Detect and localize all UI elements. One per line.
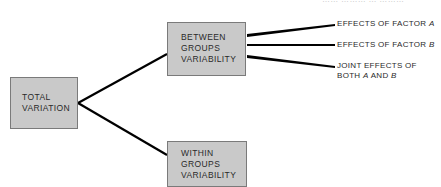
factor-b-symbol: B — [429, 40, 435, 49]
total-variation-box: TOTAL VARIATION — [10, 77, 78, 129]
between-groups-line-2: GROUPS — [181, 43, 236, 54]
connector-between-joint — [247, 55, 335, 68]
joint-effects-and: AND — [369, 71, 391, 80]
effects-factor-a-text: EFFECTS OF FACTOR — [337, 19, 429, 28]
connector-total-within — [78, 103, 167, 155]
total-variation-line-2: VARIATION — [22, 103, 70, 114]
between-groups-line-3: VARIABILITY — [181, 54, 236, 65]
connector-total-between — [78, 54, 167, 103]
between-groups-line-1: BETWEEN — [181, 32, 236, 43]
connector-between-factor-a — [247, 24, 335, 37]
factor-a-symbol: A — [429, 19, 435, 28]
joint-effects-line-2: BOTH A AND B — [337, 71, 417, 81]
total-variation-line-1: TOTAL — [22, 92, 70, 103]
effects-factor-a-label: EFFECTS OF FACTOR A — [337, 19, 435, 29]
effects-factor-b-text: EFFECTS OF FACTOR — [337, 40, 429, 49]
joint-effects-label: JOINT EFFECTS OF BOTH A AND B — [337, 61, 417, 81]
effects-factor-b-label: EFFECTS OF FACTOR B — [337, 40, 435, 50]
within-groups-line-2: GROUPS — [181, 159, 236, 170]
joint-factor-b-symbol: B — [391, 71, 397, 80]
joint-effects-prefix: BOTH — [337, 71, 363, 80]
within-groups-line-1: WITHIN — [181, 148, 236, 159]
within-groups-box: WITHIN GROUPS VARIABILITY — [167, 141, 247, 187]
joint-effects-line-1: JOINT EFFECTS OF — [337, 61, 417, 71]
within-groups-line-3: VARIABILITY — [181, 170, 236, 181]
between-groups-box: BETWEEN GROUPS VARIABILITY — [167, 22, 246, 76]
